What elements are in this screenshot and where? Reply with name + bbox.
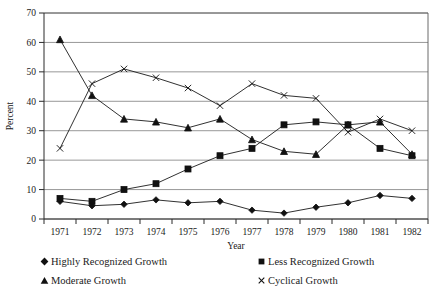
legend-label: Less Recognized Growth — [268, 256, 374, 267]
triangle-marker-icon — [38, 276, 51, 285]
data-point-square — [153, 181, 159, 187]
data-point-diamond — [185, 200, 191, 206]
data-point-square — [185, 166, 191, 172]
legend-column-right: Less Recognized Growth Cyclical Growth — [255, 252, 374, 290]
data-point-diamond — [345, 200, 351, 206]
data-point-square — [249, 145, 255, 151]
data-point-square — [345, 122, 351, 128]
legend-column-left: Highly Recognized Growth Moderate Growth — [38, 252, 167, 290]
data-point-cross — [185, 85, 191, 91]
data-point-cross — [345, 129, 351, 135]
y-axis-tick-label: 70 — [27, 8, 37, 18]
x-axis-tick-label: 1971 — [51, 227, 70, 237]
cross-marker-icon — [255, 276, 268, 285]
legend-item-highly-recognized-growth: Highly Recognized Growth — [38, 252, 167, 271]
x-axis-tick-label: 1974 — [147, 227, 166, 237]
data-point-square — [313, 119, 319, 125]
series-line — [60, 39, 412, 154]
x-axis-tick-label: 1972 — [83, 227, 102, 237]
data-point-diamond — [249, 207, 255, 213]
legend-label: Cyclical Growth — [268, 275, 338, 286]
x-axis-tick-label: 1977 — [243, 227, 262, 237]
legend-item-moderate-growth: Moderate Growth — [38, 271, 167, 290]
y-axis-tick-label: 0 — [31, 214, 36, 224]
data-point-square — [281, 122, 287, 128]
chart-container: 0102030405060701971197219731974197519761… — [0, 0, 437, 303]
data-point-diamond — [153, 197, 159, 203]
data-point-diamond — [409, 195, 415, 201]
series-line — [60, 69, 412, 148]
x-axis-tick-label: 1982 — [403, 227, 422, 237]
data-point-triangle — [89, 92, 96, 99]
x-axis-title: Year — [227, 241, 245, 251]
data-point-square — [409, 153, 415, 159]
data-point-triangle — [217, 115, 224, 122]
legend-label: Moderate Growth — [51, 275, 126, 286]
diamond-marker-icon — [38, 257, 51, 266]
y-axis-tick-label: 10 — [27, 185, 37, 195]
x-axis-tick-label: 1975 — [179, 227, 198, 237]
chart-title — [0, 0, 437, 7]
x-axis-tick-label: 1976 — [211, 227, 230, 237]
series-line — [60, 195, 412, 213]
x-axis-tick-label: 1980 — [339, 227, 358, 237]
series-moderate-growth — [57, 36, 416, 157]
data-point-diamond — [281, 210, 287, 216]
legend-label: Highly Recognized Growth — [51, 256, 167, 267]
x-axis-tick-label: 1978 — [275, 227, 294, 237]
series-highly-recognized-growth — [57, 192, 415, 216]
data-point-cross — [249, 80, 255, 86]
y-axis-tick-label: 20 — [27, 156, 37, 166]
data-point-triangle — [57, 36, 64, 43]
data-point-square — [89, 198, 95, 204]
data-point-square — [377, 145, 383, 151]
data-point-cross — [57, 145, 63, 151]
legend-item-less-recognized-growth: Less Recognized Growth — [255, 252, 374, 271]
data-point-cross — [121, 66, 127, 72]
legend-item-cyclical-growth: Cyclical Growth — [255, 271, 374, 290]
data-point-cross — [217, 103, 223, 109]
data-point-diamond — [313, 204, 319, 210]
data-point-cross — [153, 75, 159, 81]
data-point-diamond — [121, 201, 127, 207]
x-axis-tick-label: 1973 — [115, 227, 134, 237]
data-point-cross — [89, 80, 95, 86]
y-axis-tick-label: 60 — [27, 38, 37, 48]
y-axis-tick-label: 30 — [27, 126, 37, 136]
data-point-triangle — [249, 136, 256, 143]
chart-legend: Highly Recognized Growth Moderate Growth… — [0, 252, 437, 303]
square-marker-icon — [255, 257, 268, 266]
data-point-square — [57, 195, 63, 201]
x-axis-tick-label: 1981 — [371, 227, 390, 237]
data-point-diamond — [217, 198, 223, 204]
series-less-recognized-growth — [57, 119, 415, 204]
y-axis-tick-label: 40 — [27, 97, 37, 107]
line-chart-plot: 0102030405060701971197219731974197519761… — [0, 0, 437, 252]
data-point-square — [121, 187, 127, 193]
data-point-diamond — [377, 192, 383, 198]
x-axis-tick-label: 1979 — [307, 227, 326, 237]
data-point-square — [217, 153, 223, 159]
y-axis-tick-label: 50 — [27, 67, 37, 77]
y-axis-title: Percent — [5, 101, 15, 130]
